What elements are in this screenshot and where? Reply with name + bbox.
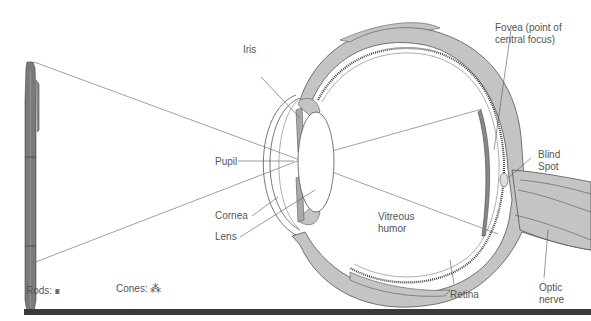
label-vitreous-1: Vitreous [378,211,415,222]
cornea [263,95,300,235]
bottom-divider-bar [24,309,591,315]
legend-rods: Rods: IIII [26,285,59,297]
light-rays [33,62,498,263]
legend-cones: Cones: ⁂ [116,283,161,294]
label-fovea-2: central focus) [495,34,555,45]
eye-illustration [0,0,591,321]
cones-icon: ⁂ [150,282,161,294]
label-blind-1: Blind [538,149,560,160]
label-cornea: Cornea [215,210,248,221]
fovea-region [478,110,490,236]
legend-cones-label: Cones: [116,283,148,294]
label-retina: Retina [450,289,479,300]
legend-rods-label: Rods: [26,285,52,296]
label-lens: Lens [215,231,237,242]
label-iris: Iris [243,44,256,55]
eye-diagram: Iris Pupil Cornea Lens Vitreous humor Fo… [0,0,591,321]
pen-icon [25,62,39,314]
label-optic-1: Optic [539,282,562,293]
label-optic-2: nerve [539,294,564,305]
label-fovea-1: Fovea (point of [495,22,562,33]
blind-spot [500,173,508,187]
label-pupil: Pupil [215,156,237,167]
label-vitreous-2: humor [378,223,406,234]
label-blind-2: Spot [538,161,559,172]
rods-icon: IIII [55,288,59,295]
retina-layer [318,48,504,282]
